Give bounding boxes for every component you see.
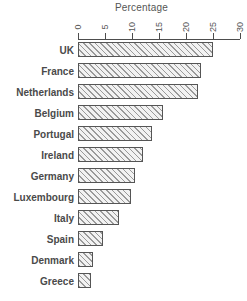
bar-netherlands <box>78 84 198 99</box>
bar-portugal <box>78 126 152 141</box>
category-label-uk: UK <box>2 40 74 61</box>
category-label-germany: Germany <box>2 166 74 187</box>
category-label-denmark: Denmark <box>2 250 74 271</box>
x-tick-mark-4 <box>186 33 187 39</box>
x-tick-mark-2 <box>132 33 133 39</box>
bar-chart: Percentage 0 5 10 15 20 25 30 UKFranceNe… <box>0 0 247 301</box>
bar-row <box>78 145 240 166</box>
category-label-netherlands: Netherlands <box>2 82 74 103</box>
bar-france <box>78 63 201 78</box>
bar-row <box>78 61 240 82</box>
bar-row <box>78 82 240 103</box>
bar-greece <box>78 273 91 288</box>
category-label-greece: Greece <box>2 271 74 292</box>
bar-germany <box>78 168 135 183</box>
x-tick-mark-0 <box>78 33 79 39</box>
bar-belgium <box>78 105 163 120</box>
x-tick-mark-6 <box>240 33 241 39</box>
plot-area <box>78 40 240 296</box>
bar-denmark <box>78 252 93 267</box>
bar-italy <box>78 210 119 225</box>
bar-row <box>78 187 240 208</box>
bar-row <box>78 229 240 250</box>
category-label-ireland: Ireland <box>2 145 74 166</box>
bar-row <box>78 40 240 61</box>
bar-ireland <box>78 147 143 162</box>
x-tick-mark-3 <box>159 33 160 39</box>
category-label-belgium: Belgium <box>2 103 74 124</box>
bar-row <box>78 124 240 145</box>
category-label-france: France <box>2 61 74 82</box>
category-label-spain: Spain <box>2 229 74 250</box>
bar-row <box>78 103 240 124</box>
category-label-luxembourg: Luxembourg <box>2 187 74 208</box>
bar-row <box>78 250 240 271</box>
bar-row <box>78 166 240 187</box>
x-tick-mark-5 <box>213 33 214 39</box>
category-label-portugal: Portugal <box>2 124 74 145</box>
bar-row <box>78 271 240 292</box>
y-axis-category-labels: UKFranceNetherlandsBelgiumPortugalIrelan… <box>0 40 74 296</box>
x-axis-title: Percentage <box>0 2 247 13</box>
category-label-italy: Italy <box>2 208 74 229</box>
bar-spain <box>78 231 103 246</box>
bar-luxembourg <box>78 189 131 204</box>
bar-row <box>78 208 240 229</box>
x-tick-mark-1 <box>105 33 106 39</box>
bar-uk <box>78 42 213 57</box>
